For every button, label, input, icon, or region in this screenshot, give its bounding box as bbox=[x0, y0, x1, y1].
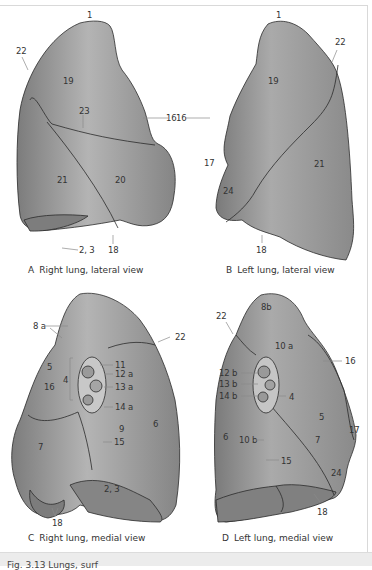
leader-lines bbox=[186, 0, 372, 280]
panel-b-left-lung-lateral: 1 22 19 16 17 21 24 18 BLeft lung, later… bbox=[186, 0, 372, 280]
caption-text: Right lung, medial view bbox=[39, 533, 145, 543]
panel-c-right-lung-medial: 8 a 22 5 4 16 11 12 a 13 a 14 a 9 6 15 7… bbox=[0, 290, 186, 550]
caption-a: ARight lung, lateral view bbox=[28, 265, 143, 275]
caption-b: BLeft lung, lateral view bbox=[226, 265, 335, 275]
panel-letter: A bbox=[28, 265, 34, 275]
label-16: 16 bbox=[166, 114, 176, 123]
caption-c: CRight lung, medial view bbox=[28, 533, 145, 543]
panel-d-left-lung-medial: 8b 22 10 a 16 12 b 13 b 14 b 4 5 17 6 10… bbox=[186, 290, 372, 550]
caption-text: Left lung, medial view bbox=[234, 533, 333, 543]
panel-a-right-lung-lateral: 1 22 19 23 16 21 20 2, 3 18 ARight lung,… bbox=[0, 0, 186, 280]
caption-text: Right lung, lateral view bbox=[39, 265, 143, 275]
panel-letter: B bbox=[226, 265, 232, 275]
leader-lines bbox=[186, 290, 372, 550]
caption-d: DLeft lung, medial view bbox=[222, 533, 333, 543]
leader-lines bbox=[0, 290, 186, 550]
figure-caption-strip: Fig. 3.13 Lungs, surf bbox=[0, 552, 372, 566]
figure-caption-text: Fig. 3.13 Lungs, surf bbox=[7, 560, 98, 570]
panel-letter: D bbox=[222, 533, 229, 543]
caption-text: Left lung, lateral view bbox=[237, 265, 335, 275]
panel-letter: C bbox=[28, 533, 34, 543]
leader-lines bbox=[0, 0, 186, 280]
